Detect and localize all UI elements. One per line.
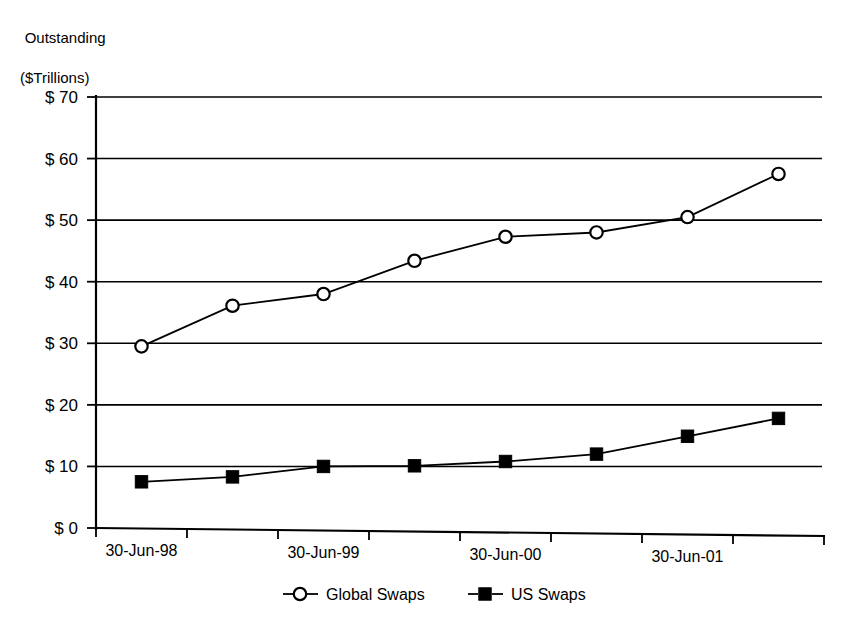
y-axis-tick-label: $ 50 — [45, 211, 78, 230]
data-point-marker — [408, 460, 420, 472]
chart-container: Outstanding ($Trillions) $ 0$ 10$ 20$ 30… — [0, 0, 841, 631]
data-point-marker — [317, 460, 329, 472]
x-axis-ticks-group: 30-Jun-9830-Jun-9930-Jun-0030-Jun-01 — [96, 528, 824, 565]
x-axis-tick-label: 30-Jun-00 — [469, 546, 541, 563]
y-axis-tick-label: $ 20 — [45, 396, 78, 415]
data-point-marker — [499, 455, 511, 467]
data-point-marker — [681, 211, 693, 223]
legend-item-us-swaps: US Swaps — [468, 586, 586, 603]
y-axis-tick-label: $ 60 — [45, 150, 78, 169]
y-axis-tick-label: $ 10 — [45, 457, 78, 476]
legend-item-global-swaps: Global Swaps — [283, 586, 425, 603]
data-point-marker — [135, 340, 147, 352]
x-axis-tick-label: 30-Jun-01 — [651, 548, 723, 565]
data-point-marker — [499, 231, 511, 243]
data-point-marker — [226, 300, 238, 312]
gridlines-group — [96, 95, 825, 536]
data-point-marker — [681, 430, 693, 442]
data-point-marker — [226, 471, 238, 483]
y-axis-tick-label: $ 0 — [54, 519, 78, 538]
data-point-marker — [590, 226, 602, 238]
x-axis-tick-label: 30-Jun-99 — [287, 544, 359, 561]
legend-label: Global Swaps — [326, 586, 425, 603]
y-axis-tick-label: $ 40 — [45, 273, 78, 292]
data-point-marker — [590, 448, 602, 460]
data-series-group — [135, 168, 784, 488]
legend-label: US Swaps — [511, 586, 586, 603]
data-point-marker — [772, 168, 784, 180]
y-axis-ticks-group: $ 0$ 10$ 20$ 30$ 40$ 50$ 60$ 70 — [45, 88, 96, 538]
legend-marker-open-circle-icon — [294, 588, 306, 600]
data-point-marker — [772, 412, 784, 424]
data-point-marker — [135, 476, 147, 488]
chart-legend: Global SwapsUS Swaps — [283, 586, 586, 603]
y-axis-tick-label: $ 30 — [45, 334, 78, 353]
x-axis-tick-label: 30-Jun-98 — [105, 542, 177, 559]
y-axis-tick-label: $ 70 — [45, 88, 78, 107]
line-chart-plot: $ 0$ 10$ 20$ 30$ 40$ 50$ 60$ 70 30-Jun-9… — [0, 0, 841, 631]
legend-marker-filled-square-icon — [479, 588, 491, 600]
data-point-marker — [317, 288, 329, 300]
data-point-marker — [408, 255, 420, 267]
series-line-global-swaps — [142, 174, 779, 346]
